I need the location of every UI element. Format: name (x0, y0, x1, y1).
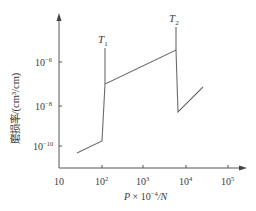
y-tick-label-1e-6: 10−6 (35, 56, 53, 68)
y-tick-label-1e-8: 10−8 (35, 100, 52, 112)
x-axis-arrow-icon (239, 166, 247, 171)
t1-label: T1 (98, 33, 108, 48)
y-axis-title: 磨损率/(cm³/cm) (4, 58, 26, 158)
wear-rate-chart: 10−6 10−8 10−10 10 102 103 (0, 0, 256, 211)
t2-label: T2 (169, 12, 179, 27)
y-axis: 10−6 10−8 10−10 (33, 13, 62, 168)
x-axis: 10 102 103 104 105 P × 10−4/N (54, 165, 247, 202)
x-axis-title: P × 10−4/N (123, 190, 168, 202)
x-tick-label-1e2: 102 (95, 175, 108, 187)
x-tick-label-1e5: 105 (221, 175, 234, 187)
wear-rate-curve (77, 50, 203, 153)
x-tick-label-10: 10 (54, 176, 64, 187)
x-tick-label-1e3: 103 (136, 175, 149, 187)
x-tick-label-1e4: 104 (179, 175, 193, 187)
y-axis-title-text: 磨损率/(cm³/cm) (8, 72, 23, 144)
y-axis-arrow-icon (57, 13, 62, 21)
y-tick-label-1e-10: 10−10 (33, 140, 53, 152)
